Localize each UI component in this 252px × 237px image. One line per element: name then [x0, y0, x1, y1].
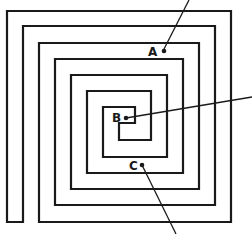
point-b-dot [124, 116, 129, 121]
pointer-line-c [142, 165, 176, 234]
spiral-diagram: A B C [0, 0, 252, 237]
point-a-dot [162, 49, 167, 54]
point-a: A [148, 0, 189, 59]
point-c-dot [140, 163, 145, 168]
point-b-label: B [112, 111, 121, 125]
point-c-label: C [129, 159, 138, 173]
point-a-label: A [148, 45, 158, 59]
pointer-line-b [126, 97, 252, 118]
